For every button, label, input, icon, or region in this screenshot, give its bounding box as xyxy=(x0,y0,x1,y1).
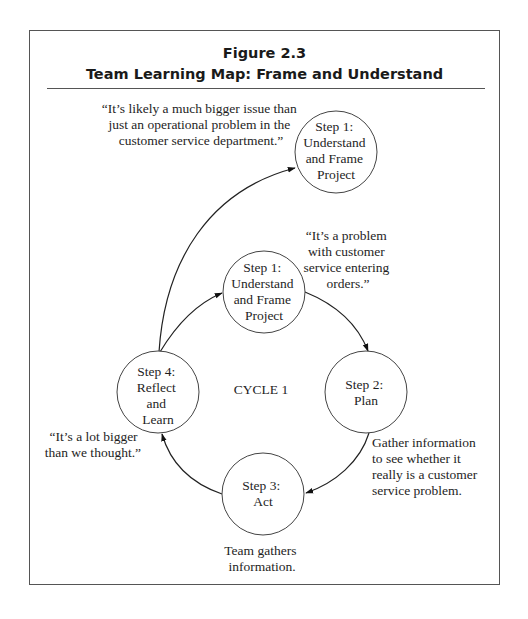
annotation-line: orders.” xyxy=(326,276,369,291)
annotation-line: Gather information xyxy=(372,435,476,450)
annotation-line: with customer xyxy=(308,244,385,259)
arrow-step3-to-step4 xyxy=(162,434,222,494)
arrow-step4-to-step1 xyxy=(160,293,222,352)
node-label-line: Project xyxy=(245,308,283,323)
node-step4: Step 4: Reflect and Learn xyxy=(117,351,199,433)
annotation-line: customer service department.” xyxy=(119,133,284,148)
annotation-line: just an operational problem in the xyxy=(107,117,290,132)
annotation-step4-quote: “It’s a lot bigger than we thought.” xyxy=(45,429,141,460)
node-label-line: and xyxy=(147,396,167,411)
node-label-line: Step 2: xyxy=(345,377,383,392)
cycle-label: CYCLE 1 xyxy=(234,382,288,397)
annotation-outer-quote: “It’s likely a much bigger issue than ju… xyxy=(102,101,300,148)
annotation-line: than we thought.” xyxy=(45,445,141,460)
arrow-step1-to-step2 xyxy=(305,292,368,351)
node-label-line: Step 3: xyxy=(242,478,280,493)
node-step3: Step 3: Act xyxy=(222,453,304,535)
node-label-line: Learn xyxy=(142,412,174,427)
annotation-line: “It’s likely a much bigger issue than xyxy=(102,101,297,116)
node-label-line: Step 1: xyxy=(243,260,281,275)
annotation-line: information. xyxy=(228,559,295,574)
node-label-line: and Frame xyxy=(306,151,363,166)
annotation-line: service entering xyxy=(303,260,389,275)
node-label-line: Understand xyxy=(231,276,293,291)
annotation-line: Team gathers xyxy=(224,543,296,558)
team-learning-map-diagram: Step 1: Understand and Frame Project Ste… xyxy=(0,0,528,619)
annotation-line: really is a customer xyxy=(372,467,478,482)
node-label-line: Understand xyxy=(303,135,365,150)
node-label-line: Reflect xyxy=(137,380,176,395)
annotation-step3-note: Team gathers information. xyxy=(224,543,300,574)
node-circle xyxy=(325,351,407,433)
annotation-step1-quote: “It’s a problem with customer service en… xyxy=(303,228,392,291)
annotation-line: service problem. xyxy=(372,483,462,498)
node-label-line: and Frame xyxy=(234,292,291,307)
node-label-line: Project xyxy=(317,167,355,182)
node-label-line: Act xyxy=(253,494,273,509)
arrow-step2-to-step3 xyxy=(306,433,369,493)
node-step1: Step 1: Understand and Frame Project xyxy=(223,251,305,333)
node-step2: Step 2: Plan xyxy=(325,351,407,433)
annotation-line: to see whether it xyxy=(372,451,461,466)
annotation-line: “It’s a problem xyxy=(306,228,387,243)
node-label-line: Plan xyxy=(354,393,378,408)
node-label-line: Step 1: xyxy=(315,119,353,134)
annotation-step2-note: Gather information to see whether it rea… xyxy=(372,435,481,498)
annotation-line: “It’s a lot bigger xyxy=(50,429,139,444)
node-outer-step1: Step 1: Understand and Frame Project xyxy=(295,111,377,193)
node-label-line: Step 4: xyxy=(137,364,175,379)
